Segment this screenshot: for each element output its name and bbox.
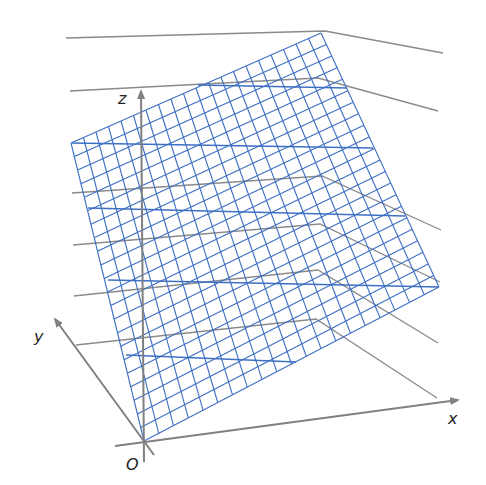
y-axis-label: y — [33, 327, 44, 346]
x-axis-label: x — [447, 409, 458, 428]
surface-long-line — [198, 85, 347, 88]
mesh-line-v — [78, 56, 332, 170]
surface-long-lines — [72, 85, 439, 362]
z-axis-label: z — [117, 89, 127, 108]
mesh-line-v — [144, 287, 439, 441]
x-axis-arrow — [115, 400, 458, 446]
origin-label: O — [126, 455, 139, 474]
guide-line — [66, 31, 443, 53]
mesh-line-v — [141, 275, 434, 427]
surface-long-line — [72, 143, 373, 148]
mesh-line-v — [71, 33, 321, 143]
y-axis-arrow — [55, 319, 154, 455]
surface-long-line — [88, 208, 405, 216]
mesh-line-v — [74, 45, 326, 157]
3d-surface-diagram: x y z O — [0, 0, 486, 485]
